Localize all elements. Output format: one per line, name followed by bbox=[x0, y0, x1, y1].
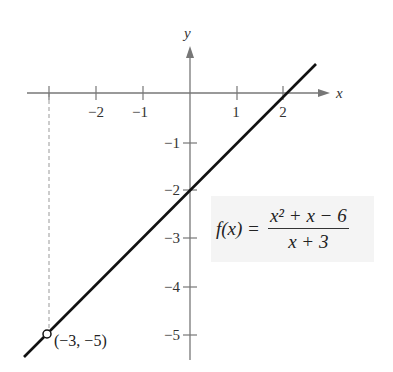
hole-marker-icon bbox=[43, 330, 51, 338]
x-tick-label: 2 bbox=[279, 104, 287, 120]
y-tick-label: −2 bbox=[164, 182, 180, 198]
x-axis-arrow-icon bbox=[318, 89, 330, 97]
formula-numerator: x² + x − 6 bbox=[268, 205, 349, 229]
x-tick-label: −2 bbox=[88, 104, 104, 120]
y-axis-label: y bbox=[182, 25, 191, 41]
hole-point-label: (−3, −5) bbox=[54, 332, 107, 350]
x-tick-label: −1 bbox=[132, 104, 148, 120]
chart-figure: −2 −1 1 2 −1 −2 −3 −4 −5 x y (−3, −5) f(… bbox=[0, 0, 393, 372]
chart-canvas: −2 −1 1 2 −1 −2 −3 −4 −5 x y bbox=[0, 0, 393, 372]
x-tick-label: 1 bbox=[232, 104, 240, 120]
formula-fraction: x² + x − 6 x + 3 bbox=[268, 205, 349, 253]
formula-lhs: f(x) = bbox=[216, 218, 260, 240]
formula-denominator: x + 3 bbox=[288, 229, 328, 253]
y-tick-label: −5 bbox=[164, 327, 180, 343]
y-tick-label: −4 bbox=[164, 279, 180, 295]
function-formula: f(x) = x² + x − 6 x + 3 bbox=[216, 199, 349, 259]
y-tick-label: −1 bbox=[164, 135, 180, 151]
y-tick-label: −3 bbox=[164, 230, 180, 246]
y-axis-arrow-icon bbox=[186, 46, 194, 58]
x-axis-label: x bbox=[335, 85, 343, 101]
